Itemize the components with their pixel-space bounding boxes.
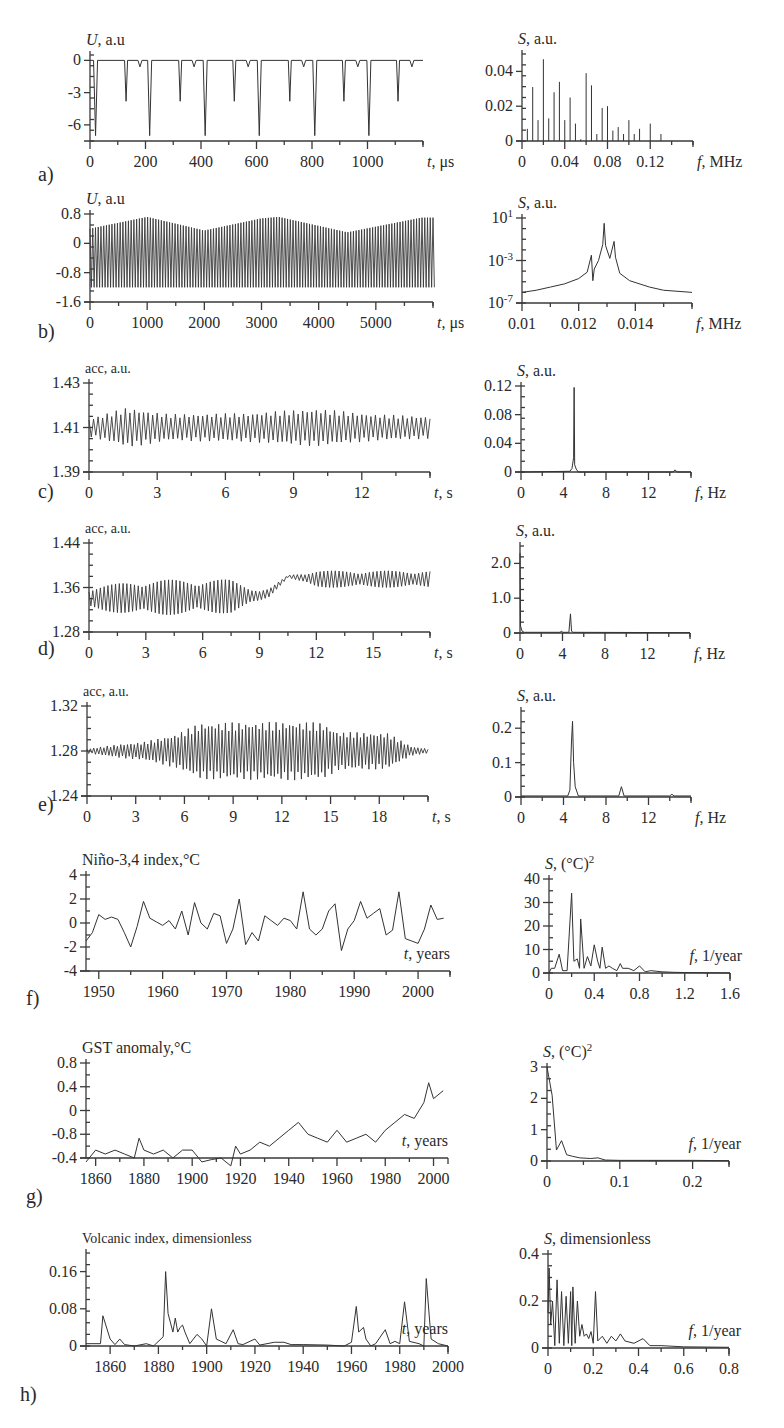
x-tick-label: 0.6 xyxy=(674,1360,694,1377)
y-axis-title: S, dimensionless xyxy=(544,1230,651,1247)
x-axis-title: f, 1/year xyxy=(689,1322,742,1340)
x-tick-label: 0 xyxy=(544,1360,552,1377)
x-tick-label: 0.4 xyxy=(629,1360,649,1377)
y-tick-label: 0.4 xyxy=(519,1245,539,1262)
y-tick-label: 0.2 xyxy=(519,1292,539,1309)
chart-svg: 00.20.400.20.40.60.8S, dimensionlessf, 1… xyxy=(0,0,784,1428)
x-tick-label: 0.8 xyxy=(719,1360,739,1377)
y-tick-label: 0 xyxy=(531,1339,539,1356)
x-tick-label: 0.2 xyxy=(583,1360,603,1377)
